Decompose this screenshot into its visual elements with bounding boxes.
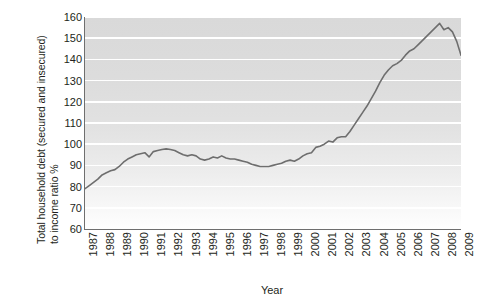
y-tick-label-150: 150	[56, 33, 82, 44]
x-tick-label-1994: 1994	[208, 232, 219, 256]
y-tick-label-110: 110	[56, 118, 82, 129]
y-tick-label-140: 140	[56, 54, 82, 65]
x-tick-label-2007: 2007	[430, 232, 441, 256]
y-tick-label-100: 100	[56, 139, 82, 150]
plot-area	[84, 17, 461, 230]
y-tick-label-70: 70	[56, 202, 82, 213]
household-debt-line-chart: Total household debt (secured and insecu…	[0, 0, 488, 306]
y-tick-label-130: 130	[56, 75, 82, 86]
x-tick-label-1990: 1990	[139, 232, 150, 256]
y-tick-label-80: 80	[56, 181, 82, 192]
y-axis-title: Total household debt (secured and insecu…	[0, 0, 56, 250]
x-tick-label-1999: 1999	[293, 232, 304, 256]
x-tick-label-2003: 2003	[361, 232, 372, 256]
x-tick-label-1996: 1996	[242, 232, 253, 256]
y-tick-label-90: 90	[56, 160, 82, 171]
x-axis-title: Year	[84, 284, 460, 296]
x-tick-label-1989: 1989	[122, 232, 133, 256]
y-axis-tick-labels: 16015014013012011010090807060	[56, 17, 82, 229]
x-tick-label-2008: 2008	[447, 232, 458, 256]
x-tick-label-1997: 1997	[259, 232, 270, 256]
y-axis-title-line-1: Total household debt (secured and insecu…	[35, 35, 47, 244]
x-tick-label-2006: 2006	[413, 232, 424, 256]
data-polyline	[85, 23, 461, 188]
x-tick-label-1998: 1998	[276, 232, 287, 256]
y-tick-label-160: 160	[56, 12, 82, 23]
x-tick-label-2005: 2005	[396, 232, 407, 256]
y-tick-label-120: 120	[56, 96, 82, 107]
y-tick-label-60: 60	[56, 224, 82, 235]
x-tick-label-1988: 1988	[105, 232, 116, 256]
x-axis-tick-labels: 1987198819891990199119921993199419951996…	[84, 232, 460, 278]
x-tick-label-2000: 2000	[310, 232, 321, 256]
x-tick-label-1987: 1987	[88, 232, 99, 256]
x-tick-label-1991: 1991	[156, 232, 167, 256]
x-tick-label-1992: 1992	[173, 232, 184, 256]
x-tick-label-2001: 2001	[327, 232, 338, 256]
data-series-line	[85, 17, 461, 229]
x-tick-label-2009: 2009	[464, 232, 475, 256]
x-tick-label-2004: 2004	[379, 232, 390, 256]
x-tick-label-2002: 2002	[344, 232, 355, 256]
x-tick-label-1993: 1993	[191, 232, 202, 256]
x-tick-label-1995: 1995	[225, 232, 236, 256]
